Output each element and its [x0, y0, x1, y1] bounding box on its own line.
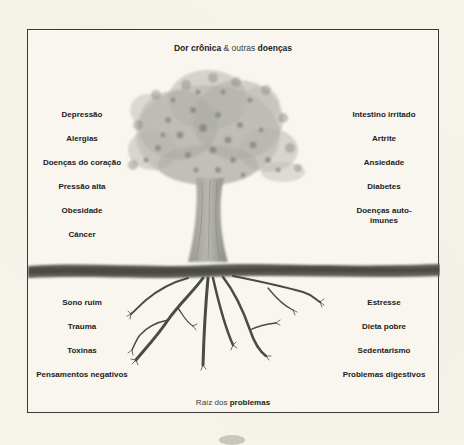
label-alergias: Alergias — [28, 134, 136, 144]
label-sono-ruim: Sono ruim — [28, 298, 136, 308]
label-diabetes: Diabetes — [330, 182, 438, 192]
diagram-frame: Dor crônica & outras doenças — [27, 29, 439, 413]
roots — [127, 276, 324, 370]
label-toxinas: Toxinas — [28, 346, 136, 356]
label-ansiedade: Ansiedade — [330, 158, 438, 168]
trunk — [188, 178, 228, 262]
label-sedentarismo: Sedentarismo — [330, 346, 438, 356]
label-pressao-alta: Pressão alta — [28, 182, 136, 192]
footer-bold: problemas — [230, 398, 270, 407]
label-artrite: Artrite — [330, 134, 438, 144]
label-dieta-pobre: Dieta pobre — [330, 322, 438, 332]
label-cancer: Câncer — [28, 230, 136, 240]
label-obesidade: Obesidade — [28, 206, 136, 216]
label-estresse: Estresse — [330, 298, 438, 308]
foliage — [128, 70, 305, 185]
label-problemas-digestivos: Problemas digestivos — [330, 370, 438, 380]
footer-regular: Raíz dos — [196, 398, 228, 407]
label-doencas-coracao: Doenças do coração — [28, 158, 136, 168]
label-doencas-autoimunes: Doenças auto-imunes — [346, 206, 422, 226]
label-pensamentos-negativos: Pensamentos negativos — [28, 370, 136, 380]
label-depressao: Depressão — [28, 110, 136, 120]
label-intestino-irritado: Intestino irritado — [330, 110, 438, 120]
page-marker — [219, 435, 245, 445]
label-trauma: Trauma — [28, 322, 136, 332]
diagram-footer: Raíz dos problemas — [28, 398, 438, 407]
